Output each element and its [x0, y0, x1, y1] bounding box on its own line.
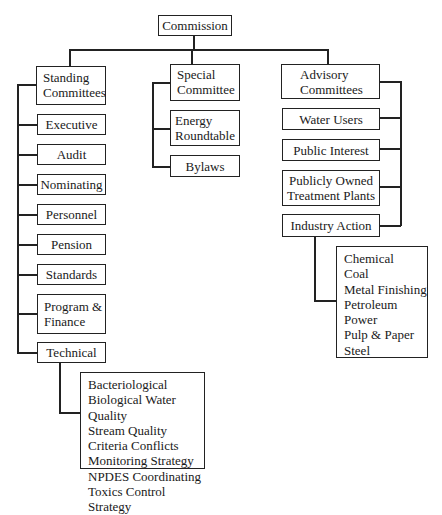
executive-box: Executive — [37, 114, 106, 135]
branch-program-finance — [17, 313, 37, 315]
industry-action-label: Industry Action — [290, 218, 371, 233]
energy-label-2: Roundtable — [175, 128, 239, 143]
personnel-box: Personnel — [37, 204, 106, 225]
advisory-branch — [379, 81, 401, 83]
branch-executive — [17, 124, 37, 126]
executive-label: Executive — [46, 117, 98, 132]
list-item: Biological Water Quality — [88, 392, 204, 423]
commission-label: Commission — [162, 18, 228, 33]
pension-label: Pension — [51, 237, 92, 252]
nominating-label: Nominating — [40, 177, 102, 192]
special-committee-box: Special Committee — [170, 64, 240, 101]
standing-branch — [17, 84, 36, 86]
list-item: Toxics Control Strategy — [88, 484, 204, 515]
list-item: Power — [344, 312, 427, 327]
program-finance-box: Program & Finance — [37, 294, 106, 334]
list-item: Stream Quality Criteria Conflicts — [88, 423, 204, 454]
list-item: NPDES Coordinating — [88, 469, 204, 484]
industry-to-list — [314, 300, 336, 302]
branch-bylaws — [152, 166, 170, 168]
special-label-1: Special — [177, 67, 239, 82]
water-users-label: Water Users — [299, 112, 363, 127]
bylaws-box: Bylaws — [170, 155, 240, 177]
bylaws-label: Bylaws — [186, 159, 225, 174]
advisory-committees-box: Advisory Committees — [281, 64, 380, 99]
advisory-label-1: Advisory — [300, 67, 379, 82]
technical-subcommittees-box: Bacteriological Biological Water Quality… — [80, 372, 205, 469]
standing-label-1: Standing — [43, 70, 105, 85]
energy-roundtable-box: Energy Roundtable — [170, 110, 240, 146]
nominating-box: Nominating — [37, 174, 106, 195]
special-trunk — [152, 82, 154, 167]
list-item: Monitoring Strategy — [88, 453, 204, 468]
public-interest-label: Public Interest — [293, 143, 368, 158]
connector-root-down — [193, 35, 195, 50]
standing-label-2: Committees — [43, 85, 105, 100]
technical-label: Technical — [46, 345, 96, 360]
list-item: Coal — [344, 266, 427, 281]
branch-energy — [152, 128, 170, 130]
industry-action-box: Industry Action — [282, 214, 380, 237]
technical-box: Technical — [37, 342, 106, 363]
branch-potp — [380, 186, 401, 188]
energy-label-1: Energy — [175, 113, 239, 128]
branch-nominating — [17, 184, 37, 186]
list-item: Chemical — [344, 251, 427, 266]
branch-industry-action — [380, 225, 401, 227]
advisory-trunk — [400, 81, 402, 226]
branch-technical — [17, 352, 37, 354]
branch-pension — [17, 244, 37, 246]
list-item: Metal Finishing — [344, 282, 427, 297]
list-item: Pulp & Paper — [344, 327, 427, 342]
branch-personnel — [17, 214, 37, 216]
water-users-box: Water Users — [282, 108, 380, 130]
special-branch — [152, 82, 170, 84]
potp-box: Publicly Owned Treatment Plants — [282, 170, 380, 206]
program-finance-label-2: Finance — [44, 314, 105, 329]
connector-top-horizontal — [69, 49, 328, 51]
branch-public-interest — [380, 148, 401, 150]
technical-down — [59, 362, 61, 413]
special-label-2: Committee — [177, 82, 239, 97]
connector-to-special — [191, 49, 193, 64]
pension-box: Pension — [37, 234, 106, 255]
program-finance-label-1: Program & — [44, 299, 105, 314]
audit-label: Audit — [57, 147, 87, 162]
industry-subcommittees-box: Chemical Coal Metal Finishing Petroleum … — [336, 246, 428, 358]
standards-label: Standards — [46, 267, 97, 282]
potp-label-2: Treatment Plants — [283, 188, 379, 203]
connector-to-advisory — [327, 49, 329, 64]
list-item: Petroleum — [344, 297, 427, 312]
technical-to-list — [59, 412, 80, 414]
branch-audit — [17, 154, 37, 156]
personnel-label: Personnel — [46, 207, 97, 222]
list-item: Steel — [344, 343, 427, 358]
branch-standards — [17, 274, 37, 276]
commission-box: Commission — [158, 15, 232, 36]
connector-to-standing — [69, 49, 71, 66]
potp-label-1: Publicly Owned — [283, 173, 379, 188]
standards-box: Standards — [37, 264, 106, 285]
audit-box: Audit — [37, 144, 106, 165]
industry-down — [314, 236, 316, 301]
branch-water-users — [379, 117, 401, 119]
list-item: Bacteriological — [88, 377, 204, 392]
advisory-label-2: Committees — [300, 82, 379, 97]
public-interest-box: Public Interest — [282, 139, 380, 161]
standing-committees-box: Standing Committees — [36, 66, 106, 105]
